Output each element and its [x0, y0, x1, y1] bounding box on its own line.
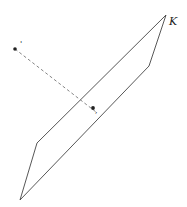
diagram-canvas: ' , K: [0, 0, 187, 207]
plane-label: K: [168, 15, 178, 28]
point-on-plane-mark: ,: [95, 106, 98, 115]
point-outside-plane: [13, 47, 17, 51]
point-outside-prime-mark: ': [20, 39, 22, 48]
dashed-projection-line: [15, 49, 96, 112]
